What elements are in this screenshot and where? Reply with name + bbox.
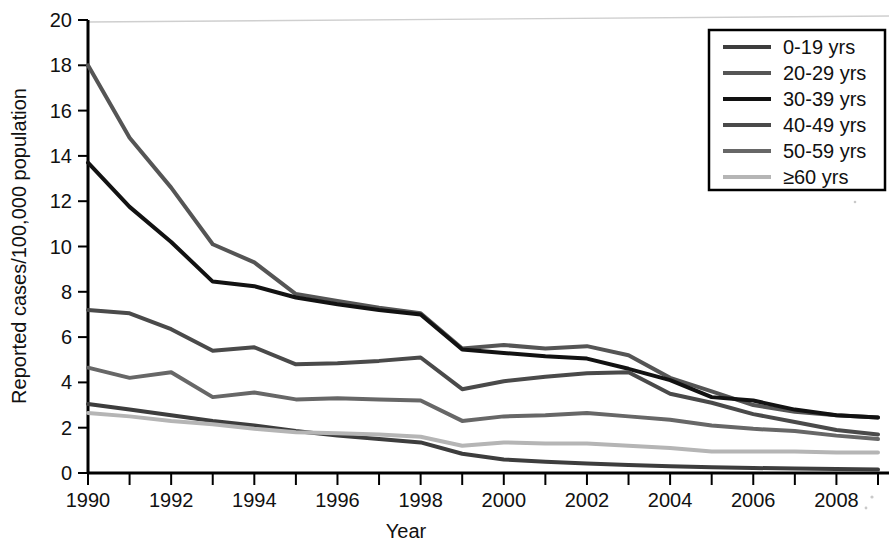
scan-speck bbox=[870, 495, 873, 498]
legend-label-30-39-yrs: 30-39 yrs bbox=[783, 88, 866, 110]
legend-label--60-yrs: ≥60 yrs bbox=[783, 166, 848, 188]
chart-figure: 02468101214161820 1990199219941996199820… bbox=[0, 0, 889, 545]
scan-speck bbox=[854, 201, 857, 204]
x-tick-label: 1998 bbox=[398, 489, 443, 511]
y-tick-label: 20 bbox=[50, 9, 72, 31]
x-axis-title: Year bbox=[386, 520, 427, 542]
x-tick-label: 2000 bbox=[482, 489, 527, 511]
scan-speck bbox=[865, 507, 868, 510]
chart-legend: 0-19 yrs20-29 yrs30-39 yrs40-49 yrs50-59… bbox=[709, 30, 885, 190]
series-line-40-49-yrs bbox=[88, 310, 878, 435]
legend-label-20-29-yrs: 20-29 yrs bbox=[783, 62, 866, 84]
y-tick-label: 4 bbox=[61, 371, 72, 393]
legend-label-50-59-yrs: 50-59 yrs bbox=[783, 140, 866, 162]
x-axis-ticks bbox=[88, 473, 878, 485]
x-tick-label: 1996 bbox=[315, 489, 360, 511]
y-tick-label: 18 bbox=[50, 54, 72, 76]
y-tick-label: 14 bbox=[50, 145, 72, 167]
y-tick-label: 6 bbox=[61, 326, 72, 348]
y-tick-label: 0 bbox=[61, 462, 72, 484]
y-tick-label: 10 bbox=[50, 236, 72, 258]
series-line-30-39-yrs bbox=[88, 163, 878, 418]
x-tick-label: 1994 bbox=[232, 489, 277, 511]
legend-label-40-49-yrs: 40-49 yrs bbox=[783, 114, 866, 136]
y-axis-tick-labels: 02468101214161820 bbox=[50, 9, 72, 484]
x-tick-label: 2006 bbox=[731, 489, 776, 511]
x-tick-label: 1992 bbox=[149, 489, 194, 511]
line-chart-canvas: 02468101214161820 1990199219941996199820… bbox=[0, 0, 889, 545]
y-tick-label: 16 bbox=[50, 100, 72, 122]
y-tick-label: 12 bbox=[50, 190, 72, 212]
x-tick-label: 1990 bbox=[66, 489, 111, 511]
y-tick-label: 8 bbox=[61, 281, 72, 303]
x-tick-label: 2002 bbox=[565, 489, 610, 511]
legend-label-0-19-yrs: 0-19 yrs bbox=[783, 36, 855, 58]
page-edge-artifact bbox=[88, 16, 889, 22]
y-tick-label: 2 bbox=[61, 417, 72, 439]
x-tick-label: 2008 bbox=[814, 489, 859, 511]
y-axis-title: Reported cases/100,000 population bbox=[8, 88, 30, 404]
x-axis-tick-labels: 1990199219941996199820002002200420062008 bbox=[66, 489, 859, 511]
x-tick-label: 2004 bbox=[648, 489, 693, 511]
